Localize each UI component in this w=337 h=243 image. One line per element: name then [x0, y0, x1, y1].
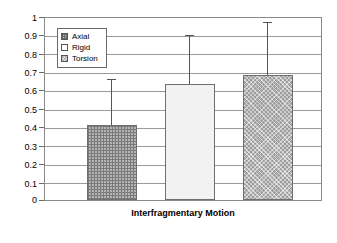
y-axis-tick-label: 0.9 [3, 32, 37, 41]
y-axis-tick-label: 0.1 [3, 180, 37, 189]
legend-label-rigid: Rigid [72, 43, 90, 52]
error-bar-cap-rigid [185, 35, 194, 36]
y-axis-tick-label: 0.8 [3, 51, 37, 60]
x-axis-title: Interfragmentary Motion [44, 208, 322, 218]
legend-swatch-axial-icon [61, 33, 68, 40]
error-bar-torsion [267, 23, 268, 75]
y-axis-tick-label: 0.5 [3, 106, 37, 115]
legend-item-axial: Axial [61, 31, 102, 42]
y-axis-tick-label: 0.3 [3, 143, 37, 152]
legend: Axial Rigid Torsion [57, 28, 107, 68]
y-axis-tick-label: 1 [3, 14, 37, 23]
legend-item-torsion: Torsion [61, 53, 102, 64]
y-axis-tick-label: 0.7 [3, 69, 37, 78]
legend-item-rigid: Rigid [61, 42, 102, 53]
legend-swatch-torsion-icon [61, 55, 68, 62]
bar-torsion [243, 75, 293, 200]
error-bar-axial [111, 80, 112, 125]
legend-label-torsion: Torsion [72, 54, 98, 63]
y-axis-tick-label: 0.6 [3, 87, 37, 96]
error-bar-cap-axial [107, 79, 116, 80]
error-bar-rigid [189, 36, 190, 84]
bar-rigid [165, 84, 215, 200]
plot-area: Axial Rigid Torsion [44, 17, 322, 201]
bar-axial [87, 125, 137, 200]
y-axis-tick-label: 0.4 [3, 124, 37, 133]
y-axis-labels: 1 0.9 0.8 0.7 0.6 0.5 0.4 0.3 0.2 0.1 0 [0, 0, 37, 243]
y-axis-tick-label: 0 [3, 196, 37, 205]
y-axis-tick-label: 0.2 [3, 161, 37, 170]
gridline [45, 73, 321, 74]
legend-swatch-rigid-icon [61, 44, 68, 51]
error-bar-cap-torsion [263, 22, 272, 23]
bar-chart: 1 0.9 0.8 0.7 0.6 0.5 0.4 0.3 0.2 0.1 0 [0, 0, 337, 243]
legend-label-axial: Axial [72, 32, 89, 41]
